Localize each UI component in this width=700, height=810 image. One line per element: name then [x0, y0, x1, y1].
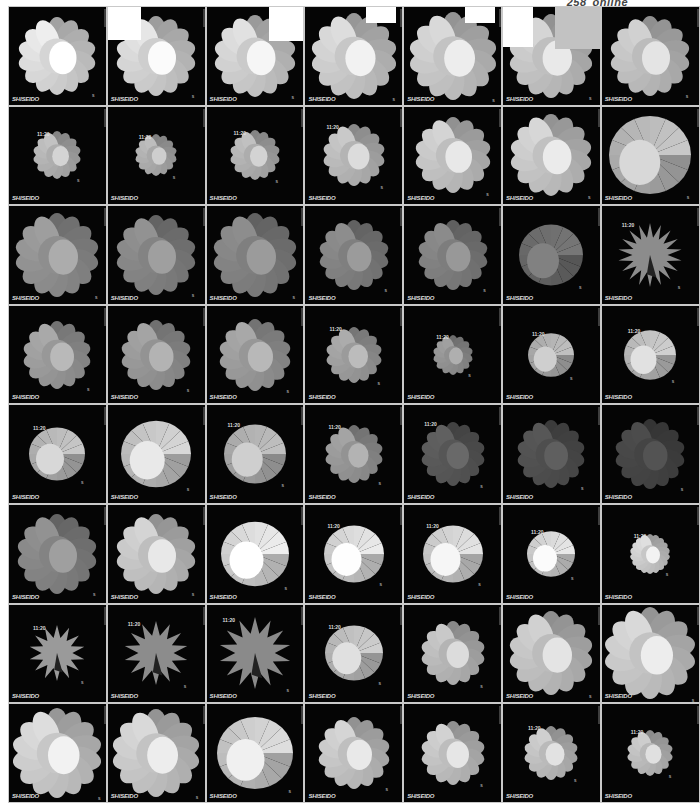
animation-frame: 11:20sSHISEIDO: [403, 404, 502, 504]
film-edge-mark: [499, 9, 501, 27]
shiseido-logo: SHISEIDO: [111, 295, 138, 301]
corner-mark: s: [571, 575, 574, 581]
shiseido-logo: SHISEIDO: [111, 394, 138, 400]
shiseido-logo: SHISEIDO: [506, 195, 533, 201]
flower-logo-shape: [21, 319, 93, 391]
animation-frame: 11:20sSHISEIDO: [304, 604, 403, 704]
film-edge-mark: [400, 706, 402, 724]
shiseido-logo: SHISEIDO: [605, 494, 632, 500]
star-logo-shape: [217, 615, 293, 691]
timestamp-label: 11:20: [531, 529, 544, 535]
shiseido-logo: SHISEIDO: [210, 693, 237, 699]
shiseido-logo: SHISEIDO: [12, 594, 39, 600]
shiseido-logo: SHISEIDO: [111, 494, 138, 500]
corner-mark: s: [173, 174, 176, 180]
corner-mark: s: [384, 287, 387, 293]
shiseido-logo: SHISEIDO: [308, 295, 335, 301]
film-edge-mark: [104, 706, 106, 724]
corner-mark: s: [672, 378, 675, 384]
flower-logo-shape: [228, 128, 282, 182]
corner-mark: s: [468, 372, 471, 378]
film-edge-mark: [598, 706, 600, 724]
shiseido-logo: SHISEIDO: [605, 594, 632, 600]
film-edge-mark: [598, 308, 600, 326]
corner-mark: s: [196, 794, 199, 800]
flower-logo-shape: [608, 14, 692, 98]
film-edge-mark: [400, 607, 402, 625]
disc-logo-shape: [526, 330, 576, 380]
film-edge-mark: [301, 208, 303, 226]
shiseido-logo: SHISEIDO: [506, 693, 533, 699]
film-edge-mark: [499, 109, 501, 127]
timestamp-label: 11:20: [631, 729, 644, 735]
flower-logo-shape: [217, 317, 293, 393]
film-edge-mark: [203, 308, 205, 326]
shiseido-logo: SHISEIDO: [210, 295, 237, 301]
animation-frame: sSHISEIDO: [601, 6, 700, 106]
flower-logo-shape: [515, 418, 587, 490]
corner-mark: s: [192, 93, 195, 99]
shiseido-logo: SHISEIDO: [210, 594, 237, 600]
film-edge-mark: [301, 109, 303, 127]
animation-frame: sSHISEIDO: [502, 205, 601, 305]
film-edge-mark: [203, 706, 205, 724]
animation-frame: sSHISEIDO: [206, 6, 305, 106]
corner-mark: s: [289, 788, 292, 794]
timestamp-label: 11:20: [532, 331, 545, 337]
shiseido-logo: SHISEIDO: [605, 96, 632, 102]
corner-mark: s: [93, 591, 96, 597]
animation-frame: sSHISEIDO: [8, 305, 107, 405]
flower-logo-shape: [110, 707, 202, 799]
shiseido-logo: SHISEIDO: [506, 96, 533, 102]
corner-mark: s: [287, 687, 290, 693]
corner-mark: s: [678, 284, 681, 290]
shiseido-logo: SHISEIDO: [308, 594, 335, 600]
shiseido-logo: SHISEIDO: [210, 494, 237, 500]
animation-frame: 11:20sSHISEIDO: [601, 205, 700, 305]
animation-frame: sSHISEIDO: [206, 504, 305, 604]
animation-frame: sSHISEIDO: [403, 703, 502, 803]
flower-logo-shape: [309, 11, 399, 101]
corner-mark: s: [378, 680, 381, 686]
disc-logo-shape: [215, 713, 295, 793]
shiseido-logo: SHISEIDO: [111, 693, 138, 699]
film-edge-mark: [104, 9, 106, 27]
disc-logo-shape: [525, 528, 577, 580]
corner-mark: s: [579, 284, 582, 290]
animation-frame: sSHISEIDO: [8, 6, 107, 106]
animation-frame: sSHISEIDO: [8, 703, 107, 803]
film-edge-mark: [598, 208, 600, 226]
disc-logo-shape: [119, 417, 193, 491]
shiseido-logo: SHISEIDO: [605, 693, 632, 699]
shiseido-logo: SHISEIDO: [12, 295, 39, 301]
shiseido-logo: SHISEIDO: [111, 594, 138, 600]
animation-frame: 11:20sSHISEIDO: [8, 604, 107, 704]
scan-overlay-patch: [503, 7, 533, 47]
shiseido-logo: SHISEIDO: [308, 693, 335, 699]
film-edge-mark: [598, 109, 600, 127]
film-edge-mark: [104, 109, 106, 127]
timestamp-label: 11:20: [234, 130, 247, 136]
shiseido-logo: SHISEIDO: [12, 693, 39, 699]
animation-frame: sSHISEIDO: [403, 106, 502, 206]
timestamp-label: 11:20: [622, 222, 635, 228]
flower-logo-shape: [316, 715, 392, 791]
animation-frame: sSHISEIDO: [502, 6, 601, 106]
disc-logo-shape: [322, 522, 386, 586]
corner-mark: s: [285, 585, 288, 591]
animation-frame: sSHISEIDO: [601, 604, 700, 704]
shiseido-logo: SHISEIDO: [12, 195, 39, 201]
corner-mark: s: [287, 388, 290, 394]
film-edge-mark: [400, 9, 402, 27]
timestamp-label: 11:20: [223, 617, 236, 623]
star-logo-shape: [616, 221, 684, 289]
film-edge-mark: [697, 208, 699, 226]
animation-frame: 11:20sSHISEIDO: [601, 504, 700, 604]
flower-logo-shape: [13, 211, 101, 299]
shiseido-logo: SHISEIDO: [111, 793, 138, 799]
corner-mark: s: [687, 194, 690, 200]
animation-frame: sSHISEIDO: [403, 205, 502, 305]
flower-logo-shape: [321, 122, 387, 188]
flower-logo-shape: [625, 728, 675, 778]
animation-frame: 11:20sSHISEIDO: [502, 305, 601, 405]
